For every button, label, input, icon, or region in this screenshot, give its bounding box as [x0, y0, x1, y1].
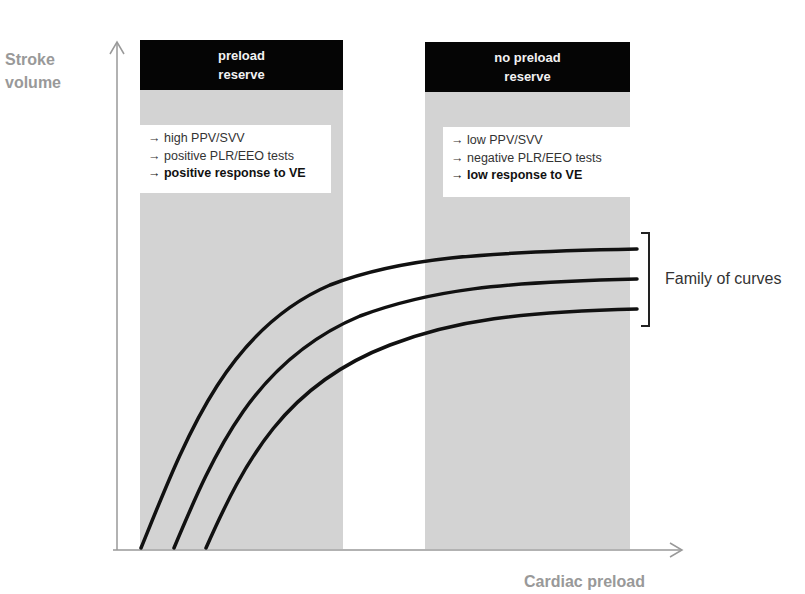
- y-axis: [110, 42, 124, 550]
- bracket: [641, 233, 649, 326]
- curve-upper: [141, 249, 637, 548]
- x-axis: [113, 543, 682, 557]
- family-of-curves-label: Family of curves: [665, 270, 781, 288]
- x-axis-label: Cardiac preload: [524, 570, 645, 593]
- y-axis-label: Stroke volume: [5, 48, 61, 94]
- diagram-canvas: [0, 0, 805, 594]
- curve-middle: [174, 279, 637, 548]
- curve-family: [141, 249, 637, 548]
- curve-lower: [206, 309, 637, 548]
